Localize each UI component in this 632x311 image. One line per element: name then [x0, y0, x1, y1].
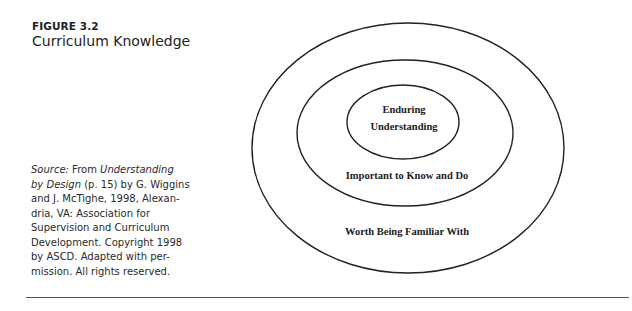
outer-label: Worth Being Familiar With	[345, 226, 469, 237]
nested-ellipses-diagram: Enduring Understanding Important to Know…	[0, 0, 632, 311]
middle-label: Important to Know and Do	[346, 170, 469, 181]
inner-label-line-2: Understanding	[370, 121, 438, 132]
middle-ellipse	[297, 60, 513, 206]
horizontal-rule	[26, 297, 629, 298]
inner-label-line-1: Enduring	[382, 104, 426, 115]
